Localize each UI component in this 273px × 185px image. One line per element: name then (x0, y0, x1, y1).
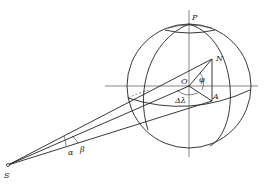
label-alpha: α (68, 148, 74, 157)
label-S: S (4, 171, 10, 180)
label-beta: β (79, 145, 85, 154)
parallel-arc-top (165, 30, 215, 33)
beta-angle-arc (72, 136, 78, 143)
label-N: N (215, 54, 224, 63)
sight-line-A (8, 101, 212, 165)
label-phi: φ (199, 75, 205, 84)
observer-point (7, 164, 10, 167)
sight-line-O (8, 86, 189, 165)
meridian-arc-right (189, 24, 230, 146)
label-A: A (212, 92, 219, 101)
alpha-angle-arc (64, 136, 66, 146)
delta-lambda-arc (177, 90, 198, 95)
celestial-sphere-diagram: P N O A φ Δλ α β S (0, 0, 273, 185)
label-P: P (191, 13, 198, 22)
radius-to-A (189, 86, 212, 101)
label-O: O (181, 77, 188, 86)
label-delta-lambda: Δλ (174, 96, 186, 105)
sight-line-N (8, 59, 212, 165)
